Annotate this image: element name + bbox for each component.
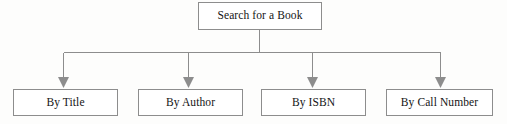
hierarchy-diagram: Search for a Book By Title By Author By …	[0, 0, 507, 124]
node-search-for-a-book: Search for a Book	[198, 2, 322, 30]
node-by-author: By Author	[138, 89, 243, 116]
node-by-author-label: By Author	[166, 97, 215, 109]
arrowhead-by-isbn-icon	[307, 77, 318, 88]
node-by-isbn: By ISBN	[261, 89, 366, 116]
node-by-call-number: By Call Number	[386, 89, 493, 116]
node-by-isbn-label: By ISBN	[292, 97, 335, 109]
node-by-call-number-label: By Call Number	[401, 97, 478, 109]
arrowhead-by-call-number-icon	[435, 77, 446, 88]
arrowhead-by-author-icon	[183, 77, 194, 88]
node-by-title-label: By Title	[46, 97, 84, 109]
node-by-title: By Title	[13, 89, 118, 116]
node-root-label: Search for a Book	[217, 10, 302, 22]
arrowhead-by-title-icon	[58, 77, 69, 88]
